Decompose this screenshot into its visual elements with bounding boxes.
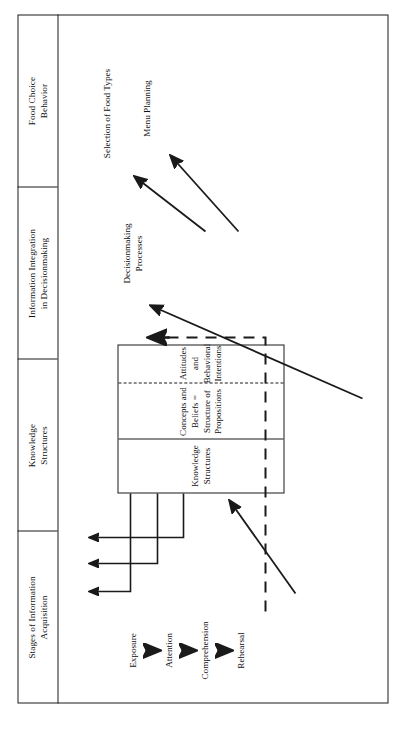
rotated-figure-wrapper: Stages of Information Acquisition Knowle… — [17, 14, 388, 703]
arrow-decisionmaking-to-food-types — [134, 176, 205, 231]
feedback-ks-to-comprehension — [89, 493, 183, 537]
arrow-decisionmaking-to-menu-planning — [170, 155, 238, 231]
connector-layer — [17, 14, 388, 703]
feedback-ks-to-attention — [89, 493, 157, 563]
figure-page: Stages of Information Acquisition Knowle… — [0, 0, 405, 732]
arrow-knowledge-structures-to-decisionmaking — [150, 305, 362, 398]
arrow-rehearsal-to-knowledge-structures — [229, 500, 295, 593]
diagram-canvas: Stages of Information Acquisition Knowle… — [17, 14, 388, 703]
feedback-ks-to-exposure — [89, 493, 130, 591]
dashed-rehearsal-to-decisionmaking — [163, 337, 265, 611]
